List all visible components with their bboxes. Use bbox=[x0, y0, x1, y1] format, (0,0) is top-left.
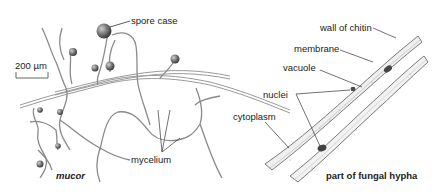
spore-case bbox=[57, 109, 63, 115]
label-mycelium: mycelium bbox=[131, 155, 171, 165]
scale-bar bbox=[16, 72, 48, 78]
spore-cases bbox=[37, 24, 180, 168]
fungi-diagram: spore case 200 µm mycelium mucor wall of… bbox=[0, 0, 434, 194]
label-cytoplasm: cytoplasm bbox=[233, 112, 276, 122]
spore-case bbox=[37, 161, 44, 168]
panel-title-fungal-hypha: part of fungal hypha bbox=[326, 171, 417, 181]
spore-case bbox=[37, 107, 43, 113]
label-nuclei: nuclei bbox=[263, 90, 288, 100]
stolon-strands bbox=[20, 71, 290, 113]
spore-case bbox=[69, 48, 77, 56]
label-wall-of-chitin: wall of chitin bbox=[320, 23, 372, 33]
spore-case bbox=[92, 65, 99, 72]
hyphae bbox=[30, 28, 222, 182]
spore-case bbox=[171, 55, 180, 64]
scale-bar-label: 200 µm bbox=[15, 61, 47, 71]
panel-title-mucor: mucor bbox=[56, 171, 85, 181]
spore-case-leader bbox=[110, 21, 130, 27]
spore-case bbox=[106, 62, 115, 71]
hypha-tube bbox=[265, 36, 428, 182]
spore-case bbox=[55, 143, 61, 149]
label-vacuole: vacuole bbox=[283, 63, 316, 73]
label-membrane: membrane bbox=[294, 44, 339, 54]
spore-case-large bbox=[97, 24, 112, 39]
label-spore-case: spore case bbox=[131, 16, 177, 26]
mycelium-leaders bbox=[158, 110, 180, 152]
nucleus bbox=[351, 87, 356, 91]
